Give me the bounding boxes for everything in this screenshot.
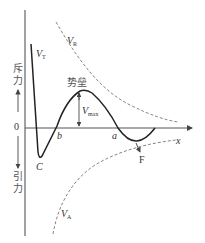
point-f-label: F — [139, 155, 145, 165]
point-c-label: C — [36, 162, 43, 172]
diagram-canvas — [0, 0, 205, 243]
x-axis-label: x — [176, 136, 180, 146]
vmax-label-sub: max — [88, 111, 98, 117]
vmax-label: Vmax — [82, 106, 98, 117]
vr-label-sub: R — [73, 41, 77, 47]
potential-energy-diagram: 斥 力 0 引 力 x VT VR VA 势垒 Vmax b a C F — [0, 0, 205, 243]
attraction-label-1: 引 — [13, 172, 23, 182]
barrier-label: 势垒 — [67, 78, 87, 88]
origin-label: 0 — [14, 122, 19, 132]
attraction-label-2: 力 — [13, 184, 23, 194]
vt-label-sub: T — [42, 54, 46, 60]
point-a-label: a — [112, 131, 117, 141]
repulsion-label-1: 斥 — [13, 64, 23, 74]
va-label-sub: A — [67, 214, 71, 220]
point-b-label: b — [57, 131, 62, 141]
vt-label: VT — [36, 49, 46, 60]
vr-label: VR — [67, 36, 77, 47]
f-arrow-icon — [136, 143, 140, 152]
total-potential-curve — [31, 44, 155, 157]
va-label: VA — [61, 209, 71, 220]
repulsion-label-2: 力 — [13, 76, 23, 86]
